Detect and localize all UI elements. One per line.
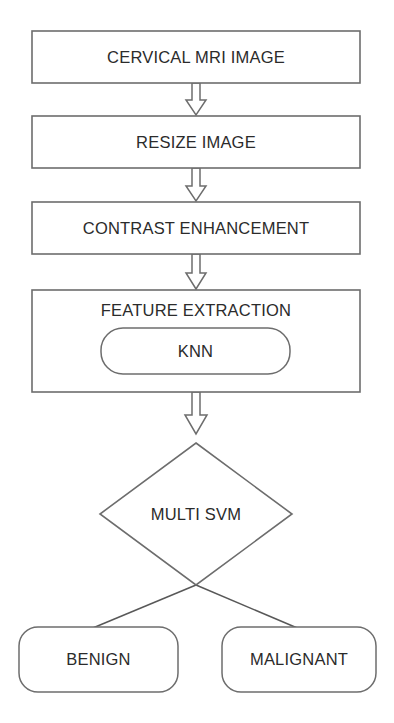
node-resize-image: [32, 116, 360, 168]
node-knn: [101, 328, 290, 374]
arrow-feature-to-svm: [185, 392, 207, 434]
arrow-contrast-to-feature: [186, 254, 206, 289]
arrow-resize-to-contrast: [186, 168, 206, 201]
arrow-mri-to-resize: [186, 83, 206, 115]
node-benign: [19, 627, 178, 692]
node-multi-svm: [100, 443, 292, 585]
node-malignant: [222, 627, 376, 692]
node-cervical-mri-image: [32, 31, 360, 83]
line-svm-to-benign: [88, 585, 196, 630]
flowchart-svg: [0, 0, 394, 723]
flowchart-canvas: CERVICAL MRI IMAGE RESIZE IMAGE CONTRAST…: [0, 0, 394, 723]
node-contrast-enhancement: [32, 202, 360, 254]
line-svm-to-malignant: [196, 585, 302, 630]
